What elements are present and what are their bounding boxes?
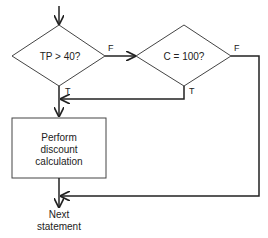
decision-c-label: C = 100? — [164, 51, 205, 62]
decision-c-true-label: T — [189, 86, 195, 96]
process-line-1: Perform — [41, 132, 77, 143]
next-statement-line-2: statement — [37, 221, 81, 232]
decision-tp-label: TP > 40? — [40, 51, 81, 62]
decision-c-false-label: F — [234, 43, 240, 53]
true-path-c — [61, 86, 184, 99]
decision-tp-true-label: T — [65, 86, 71, 96]
flowchart: TP > 40? F T C = 100? F T Perform discou… — [0, 0, 268, 238]
process-line-3: calculation — [35, 156, 82, 167]
decision-tp-false-label: F — [108, 43, 114, 53]
process-line-2: discount — [40, 144, 77, 155]
next-statement-line-1: Next — [49, 209, 70, 220]
